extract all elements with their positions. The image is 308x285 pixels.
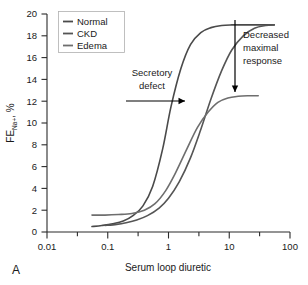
y-tick-label: 4 bbox=[32, 183, 37, 194]
y-tick-label: 6 bbox=[32, 161, 37, 172]
x-tick-label: 10 bbox=[224, 241, 235, 252]
y-tick-label: 18 bbox=[26, 30, 37, 41]
y-axis-title-unit: , % bbox=[5, 103, 16, 118]
y-tick-label: 0 bbox=[32, 226, 37, 237]
figure-panel-a: 0 2 4 6 8 10 12 14 16 18 20 0.01 bbox=[0, 0, 308, 285]
curve-edema bbox=[92, 96, 258, 215]
y-axis: 0 2 4 6 8 10 12 14 16 18 20 bbox=[26, 8, 47, 237]
secretory-defect-line1: Secretory bbox=[132, 67, 173, 78]
secretory-defect-arrow-icon bbox=[126, 98, 185, 104]
annotation-decreased-maximal-response: Decreased maximal response bbox=[232, 20, 289, 92]
decreased-max-line2: maximal bbox=[243, 42, 278, 53]
legend-label-edema: Edema bbox=[77, 40, 108, 51]
y-tick-label: 20 bbox=[26, 8, 37, 19]
x-tick-label: 0.01 bbox=[38, 241, 57, 252]
panel-label: A bbox=[12, 263, 20, 277]
decreased-max-arrow-icon bbox=[232, 20, 238, 92]
y-tick-label: 10 bbox=[26, 117, 37, 128]
y-tick-label: 12 bbox=[26, 96, 37, 107]
y-tick-label: 2 bbox=[32, 205, 37, 216]
y-axis-title-subscript: Na+ bbox=[11, 118, 18, 130]
y-tick-label: 14 bbox=[26, 74, 37, 85]
chart-svg: 0 2 4 6 8 10 12 14 16 18 20 0.01 bbox=[0, 0, 308, 285]
decreased-max-line3: response bbox=[243, 55, 282, 66]
y-axis-title-main: FE bbox=[5, 130, 16, 143]
x-axis: 0.01 0.1 1 10 100 bbox=[38, 232, 298, 252]
legend-label-normal: Normal bbox=[77, 16, 108, 27]
svg-text:FENa+, %: FENa+, % bbox=[5, 103, 18, 142]
y-axis-title: FENa+, % bbox=[5, 103, 18, 142]
x-axis-title: Serum loop diuretic bbox=[125, 262, 211, 273]
y-tick-label: 8 bbox=[32, 139, 37, 150]
x-tick-label: 1 bbox=[166, 241, 171, 252]
legend-label-ckd: CKD bbox=[77, 28, 97, 39]
y-tick-label: 16 bbox=[26, 52, 37, 63]
x-tick-label: 0.1 bbox=[101, 241, 114, 252]
x-tick-label: 100 bbox=[282, 241, 298, 252]
decreased-max-line1: Decreased bbox=[243, 29, 289, 40]
secretory-defect-line2: defect bbox=[139, 80, 165, 91]
legend: Normal CKD Edema bbox=[59, 12, 125, 53]
